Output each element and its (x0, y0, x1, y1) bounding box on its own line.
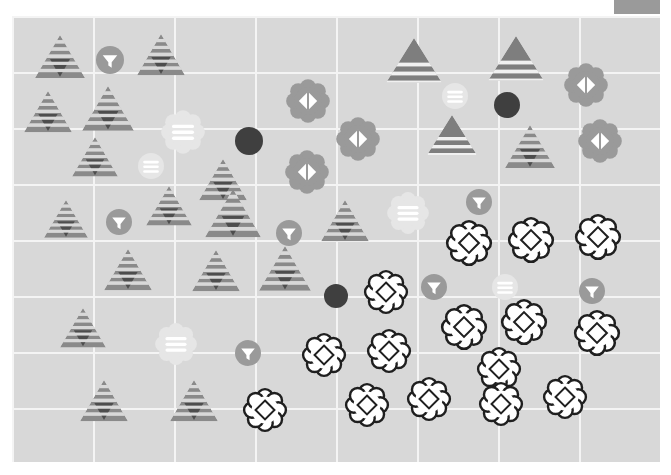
data-point-white-flower-diamond (446, 220, 492, 266)
screenshot-root (0, 0, 671, 475)
data-point-gray-flower-diamond (284, 149, 330, 195)
data-point-striped-triangle (35, 35, 85, 78)
data-point-white-flower-diamond (508, 217, 554, 263)
data-point-gray-flower-diamond (285, 78, 331, 124)
data-point-striped-triangle (259, 246, 311, 291)
data-point-white-flower-diamond (575, 214, 621, 260)
grid-line-vertical (12, 16, 14, 462)
data-point-funnel-circle (421, 274, 447, 300)
data-point-funnel-circle (276, 220, 302, 246)
data-point-white-flower-diamond (543, 375, 587, 419)
data-point-faded-flower-stripes (386, 191, 430, 235)
data-point-solid-dark-circle (235, 127, 263, 155)
data-point-solid-dark-circle (324, 284, 348, 308)
data-point-striped-triangle (146, 186, 192, 226)
data-point-striped-triangle (321, 200, 369, 241)
data-point-funnel-circle (106, 209, 132, 235)
data-point-striped-triangle (505, 125, 555, 168)
data-point-white-flower-diamond (441, 304, 487, 350)
grid-line-horizontal (12, 184, 660, 186)
plot-canvas[interactable] (12, 16, 660, 462)
legend-swatch (614, 0, 660, 14)
data-point-gray-flower-diamond (563, 62, 609, 108)
data-point-white-flower-diamond (574, 310, 620, 356)
data-point-white-flower-diamond (501, 299, 547, 345)
data-point-solid-dark-circle (494, 92, 520, 118)
data-point-funnel-circle (235, 340, 261, 366)
data-point-faded-striped-circle (442, 83, 468, 109)
data-point-faded-flower-stripes (160, 109, 206, 155)
data-point-banded-triangle (488, 36, 544, 81)
data-point-white-flower-diamond (479, 382, 523, 426)
data-point-striped-triangle (60, 308, 106, 348)
data-point-striped-triangle (72, 137, 118, 177)
data-point-funnel-circle (579, 278, 605, 304)
data-point-funnel-circle (466, 189, 492, 215)
data-point-white-flower-diamond (345, 383, 389, 427)
data-point-striped-triangle (137, 34, 185, 75)
data-point-white-flower-diamond (243, 388, 287, 432)
data-point-striped-triangle (205, 189, 261, 237)
data-point-striped-triangle (44, 200, 88, 238)
grid-line-horizontal (12, 16, 660, 18)
data-point-faded-flower-stripes (154, 322, 198, 366)
data-point-striped-triangle (24, 91, 72, 132)
data-point-striped-triangle (170, 380, 218, 421)
data-point-white-flower-diamond (364, 270, 408, 314)
data-point-gray-flower-diamond (577, 118, 623, 164)
data-point-faded-striped-circle (138, 153, 164, 179)
data-point-banded-triangle (386, 38, 442, 83)
data-point-striped-triangle (104, 249, 152, 290)
data-point-striped-triangle (82, 86, 134, 131)
data-point-white-flower-diamond (407, 377, 451, 421)
data-point-white-flower-diamond (367, 329, 411, 373)
data-point-striped-triangle (192, 250, 240, 291)
data-point-gray-flower-diamond (335, 116, 381, 162)
data-point-striped-triangle (80, 380, 128, 421)
data-point-faded-striped-circle (492, 274, 518, 300)
data-point-banded-triangle (427, 115, 477, 155)
data-point-funnel-circle (96, 46, 124, 74)
data-point-white-flower-diamond (302, 333, 346, 377)
